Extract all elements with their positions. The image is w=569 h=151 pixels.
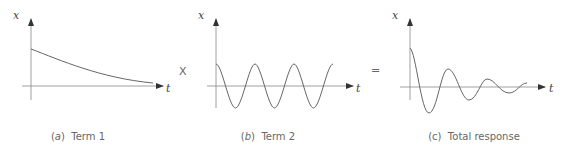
panel-c-caption: (c) Total response [428,131,520,142]
panel-a-x-label: t [166,82,170,95]
panel-a-y-label: x [13,9,19,22]
panel-a-caption: (a) Term 1 [51,131,105,142]
panel-a-axes [22,19,163,100]
panel-a-curve [31,49,153,83]
figure-canvas [0,0,569,151]
panel-c-axes [400,19,545,100]
panel-b-caption: (b) Term 2 [241,131,295,142]
panel-c-y-label: x [392,9,398,22]
equals-operator: = [371,64,380,77]
panel-b-x-label: t [356,82,360,95]
panel-b-y-label: x [198,9,204,22]
panel-c-x-label: t [549,82,553,95]
panel-c-letter: c [432,131,438,142]
multiply-operator: X [179,65,187,78]
panel-a-title: Term 1 [71,131,105,142]
panel-a-letter: a [55,131,61,142]
panel-c-title: Total response [448,131,520,142]
panel-b-title: Term 2 [261,131,295,142]
panel-b-axes [207,19,353,108]
panel-c-curve [410,48,527,113]
panel-b-letter: b [245,131,251,142]
